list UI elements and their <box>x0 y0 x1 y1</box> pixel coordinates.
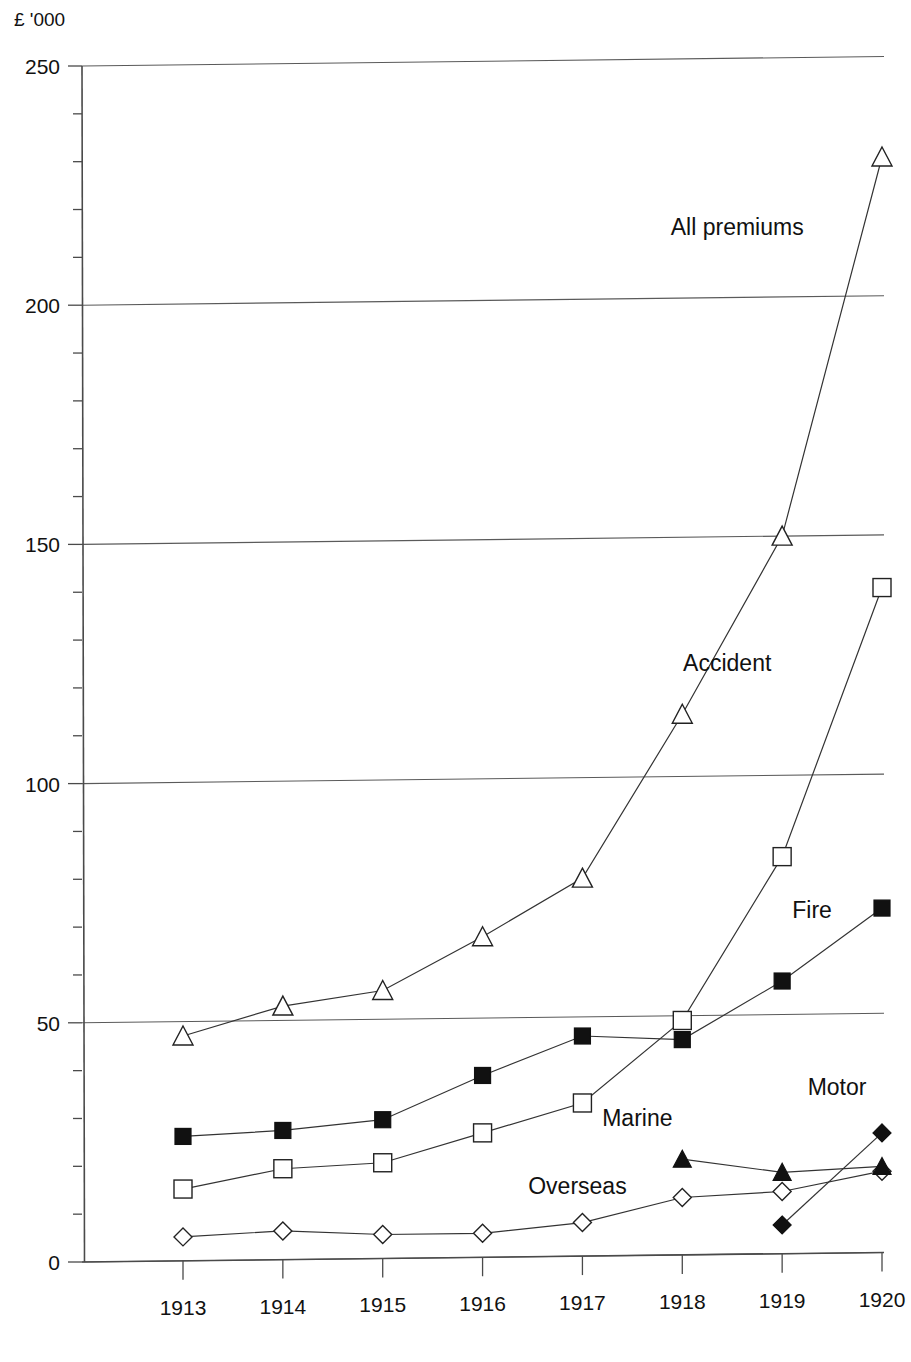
data-point-overseas-3 <box>474 1224 492 1242</box>
marker-open-diamond <box>274 1222 292 1240</box>
marker-open-square <box>673 1011 691 1029</box>
data-point-fire-1 <box>275 1122 291 1138</box>
marker-filled-square <box>674 1032 690 1048</box>
series-all-premiums <box>173 147 892 1045</box>
series-label-accident: Accident <box>683 650 772 676</box>
data-point-accident-6 <box>773 848 791 866</box>
marker-open-triangle <box>373 981 393 1000</box>
marker-open-square <box>374 1154 392 1172</box>
series-line-fire <box>183 908 882 1136</box>
gridline-150 <box>82 535 884 545</box>
data-point-fire-5 <box>674 1032 690 1048</box>
x-tick-label-1918: 1918 <box>659 1290 706 1313</box>
gridline-200 <box>82 296 884 306</box>
marker-open-square <box>773 848 791 866</box>
x-tick-label-1919: 1919 <box>759 1289 806 1312</box>
chart-container: 050100150200250 191319141915191619171918… <box>0 0 911 1362</box>
marker-filled-square <box>375 1112 391 1128</box>
marker-filled-square <box>774 973 790 989</box>
data-point-all-premiums-3 <box>473 927 493 946</box>
series-accident <box>174 579 891 1198</box>
data-point-accident-5 <box>673 1011 691 1029</box>
marker-open-diamond <box>474 1224 492 1242</box>
marker-open-square <box>174 1180 192 1198</box>
series-label-overseas: Overseas <box>528 1173 626 1199</box>
series-line-accident <box>183 588 882 1189</box>
data-point-marine-2 <box>873 1157 891 1174</box>
y-tick-label-100: 100 <box>25 773 60 796</box>
marker-open-diamond <box>673 1188 691 1206</box>
marker-open-square <box>274 1160 292 1178</box>
marker-filled-square <box>475 1067 491 1083</box>
gridline-250 <box>82 57 884 67</box>
marker-filled-triangle <box>873 1157 891 1174</box>
data-point-all-premiums-4 <box>572 868 592 887</box>
marker-filled-square <box>874 900 890 916</box>
data-point-accident-0 <box>174 1180 192 1198</box>
data-point-accident-4 <box>573 1094 591 1112</box>
data-point-all-premiums-0 <box>173 1026 193 1045</box>
data-point-all-premiums-5 <box>672 704 692 723</box>
data-point-overseas-1 <box>274 1222 292 1240</box>
data-point-overseas-6 <box>773 1183 791 1201</box>
marker-open-triangle <box>872 147 892 166</box>
marker-open-square <box>474 1124 492 1142</box>
series-label-marine: Marine <box>602 1105 672 1131</box>
x-tick-label-1913: 1913 <box>160 1296 207 1319</box>
data-point-fire-6 <box>774 973 790 989</box>
data-point-overseas-4 <box>573 1214 591 1232</box>
marker-open-triangle <box>672 704 692 723</box>
data-point-overseas-0 <box>174 1228 192 1246</box>
data-point-all-premiums-7 <box>872 147 892 166</box>
data-series-group <box>173 147 892 1246</box>
series-label-motor: Motor <box>808 1074 867 1100</box>
marker-open-triangle <box>473 927 493 946</box>
y-tick-labels-group: 050100150200250 <box>25 55 60 1274</box>
series-labels-group: All premiumsAccidentFireOverseasMarineMo… <box>528 214 867 1199</box>
y-axis-unit-label: £ '000 <box>14 9 65 30</box>
data-point-fire-2 <box>375 1112 391 1128</box>
y-tick-label-0: 0 <box>48 1251 60 1274</box>
marker-filled-square <box>175 1128 191 1144</box>
series-label-all-premiums: All premiums <box>671 214 804 240</box>
x-tick-label-1917: 1917 <box>559 1291 606 1314</box>
marker-open-square <box>873 579 891 597</box>
data-point-marine-0 <box>673 1150 691 1167</box>
data-point-fire-7 <box>874 900 890 916</box>
marker-open-diamond <box>573 1214 591 1232</box>
x-tick-label-1915: 1915 <box>359 1293 406 1316</box>
marker-open-triangle <box>572 868 592 887</box>
line-chart: 050100150200250 191319141915191619171918… <box>0 0 911 1362</box>
y-tick-label-250: 250 <box>25 55 60 78</box>
marker-open-square <box>573 1094 591 1112</box>
series-fire <box>175 900 890 1144</box>
marker-open-triangle <box>173 1026 193 1045</box>
marker-open-diamond <box>773 1183 791 1201</box>
y-tick-label-50: 50 <box>37 1012 60 1035</box>
data-point-overseas-2 <box>374 1226 392 1244</box>
y-axis-line <box>82 66 85 1262</box>
x-tick-label-1916: 1916 <box>459 1292 506 1315</box>
marker-filled-square <box>574 1028 590 1044</box>
data-point-accident-7 <box>873 579 891 597</box>
gridline-50 <box>82 1013 884 1023</box>
data-point-fire-0 <box>175 1128 191 1144</box>
marker-filled-square <box>275 1122 291 1138</box>
series-line-all-premiums <box>183 157 882 1036</box>
x-tick-label-1920: 1920 <box>859 1288 906 1311</box>
marker-filled-triangle <box>673 1150 691 1167</box>
data-point-accident-1 <box>274 1160 292 1178</box>
x-tick-labels-group: 19131914191519161917191819191920 <box>160 1288 906 1319</box>
series-line-motor <box>782 1133 882 1225</box>
data-point-overseas-5 <box>673 1188 691 1206</box>
data-point-fire-4 <box>574 1028 590 1044</box>
data-point-accident-2 <box>374 1154 392 1172</box>
marker-open-diamond <box>374 1226 392 1244</box>
x-tick-label-1914: 1914 <box>259 1295 306 1318</box>
data-point-accident-3 <box>474 1124 492 1142</box>
y-tick-label-200: 200 <box>25 294 60 317</box>
y-tick-label-150: 150 <box>25 533 60 556</box>
gridline-100 <box>82 774 884 784</box>
data-point-fire-3 <box>475 1067 491 1083</box>
series-label-fire: Fire <box>792 897 832 923</box>
